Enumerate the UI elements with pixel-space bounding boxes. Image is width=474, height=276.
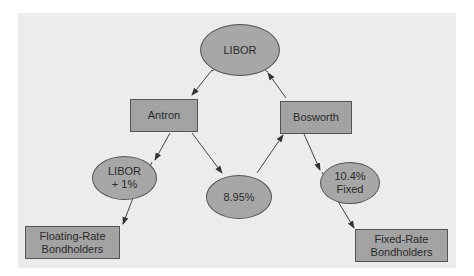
node-antron-label: Antron [148,109,180,122]
node-floating-rate-bondholders: Floating-Rate Bondholders [25,226,120,259]
node-bosworth-label: Bosworth [293,111,339,124]
node-swap-rate: 8.95% [206,175,272,219]
arrow-libor-to-antron [192,70,212,95]
node-libor-label: LIBOR [223,44,256,57]
arrow-antron-to-swap-rate [192,133,222,173]
node-fixed-rate: 10.4% Fixed [320,162,380,204]
node-libor: LIBOR [200,24,280,76]
node-floating-rate-bondholders-label: Floating-Rate Bondholders [39,230,105,256]
arrow-bosworth-to-fixed-rate [304,134,320,170]
node-fixed-rate-bondholders-label: Fixed-Rate Bondholders [371,233,433,259]
node-bosworth: Bosworth [280,101,352,134]
node-libor-plus-1-label: LIBOR + 1% [108,165,141,191]
node-fixed-rate-label: 10.4% Fixed [334,170,365,196]
arrow-swap-rate-to-bosworth [257,135,283,173]
node-swap-rate-label: 8.95% [223,191,254,204]
node-libor-plus-1: LIBOR + 1% [92,156,157,200]
arrow-antron-to-libor-plus [155,133,170,160]
arrow-bosworth-to-libor [268,73,286,98]
node-fixed-rate-bondholders: Fixed-Rate Bondholders [355,229,448,262]
arrow-libor-plus-to-floating [123,198,133,224]
node-antron: Antron [130,99,198,132]
